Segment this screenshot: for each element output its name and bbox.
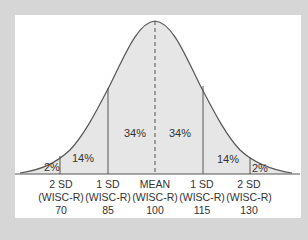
curve-fill	[20, 21, 292, 174]
pct-mid-left: 14%	[72, 152, 94, 164]
x-axis-labels: 2 SD (WISC-R) 70 1 SD (WISC-R) 85 MEAN (…	[15, 178, 301, 218]
tick-label-130: 2 SD (WISC-R) 130	[221, 178, 277, 217]
pct-outer-left: 2%	[44, 161, 60, 173]
pct-inner-left: 34%	[124, 127, 146, 139]
tick-sd: 2 SD	[221, 178, 277, 191]
pct-mid-right: 14%	[217, 153, 239, 165]
pct-inner-right: 34%	[169, 127, 191, 139]
tick-scale: (WISC-R)	[221, 191, 277, 204]
tick-value: 130	[221, 204, 277, 217]
pct-outer-right: 2%	[252, 162, 268, 174]
